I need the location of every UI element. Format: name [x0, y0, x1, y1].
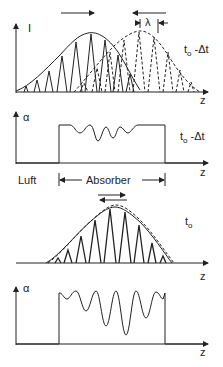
absorption-profile	[16, 125, 206, 163]
x-axis-label-z: z	[200, 166, 206, 178]
x-axis-label-z: z	[200, 94, 206, 106]
wavelength-label: λ	[145, 16, 151, 28]
time-label: to	[185, 215, 193, 230]
x-axis-label-z: z	[200, 270, 206, 282]
dashed-envelope	[74, 31, 200, 92]
y-axis-label-I: I	[28, 22, 31, 34]
panel-absorption-t0	[16, 287, 208, 345]
dashed-wave	[80, 32, 194, 92]
x-axis-label-z: z	[200, 346, 206, 358]
panel-intensity-t0-minus-dt	[16, 13, 208, 93]
y-axis-label-alpha: α	[23, 111, 30, 123]
absorption-profile	[16, 291, 206, 344]
interference-wave	[55, 209, 166, 263]
panel-intensity-t0	[16, 195, 208, 263]
region-label-luft: Luft	[18, 174, 36, 186]
time-label: to -Δt	[180, 130, 205, 145]
y-axis-label-alpha: α	[23, 282, 30, 294]
diagram: I λ z to -Δt α to -Δt z Luft Absorber to…	[0, 0, 223, 367]
region-label-absorber: Absorber	[86, 174, 131, 186]
time-label: to -Δt	[184, 43, 209, 58]
